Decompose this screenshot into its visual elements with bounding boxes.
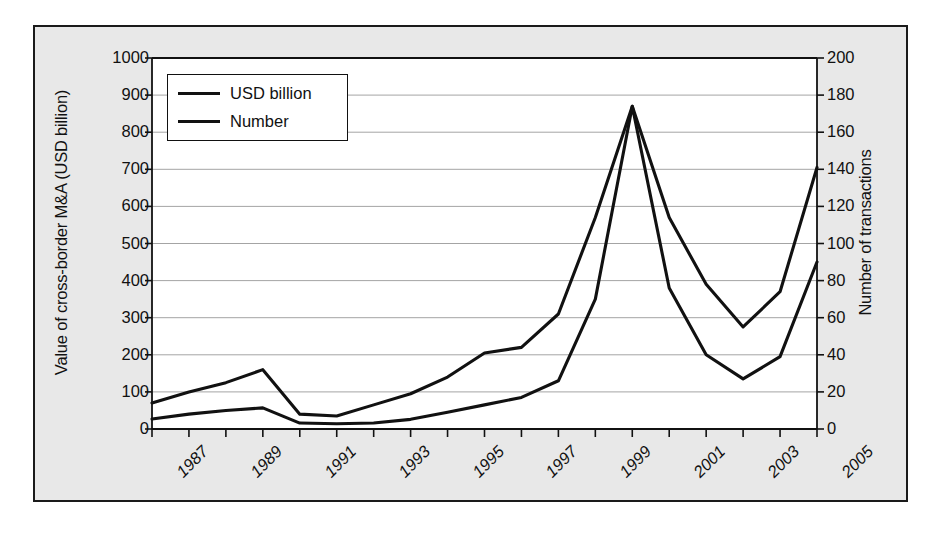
legend-label: USD billion bbox=[230, 84, 312, 103]
chart-figure-inner: Value of cross-border M&A (USD billion) … bbox=[35, 27, 906, 500]
chart-figure: Value of cross-border M&A (USD billion) … bbox=[33, 25, 908, 502]
legend-item-number: Number bbox=[178, 107, 289, 135]
legend-item-usd-billion: USD billion bbox=[178, 79, 312, 107]
chart-legend: USD billion Number bbox=[167, 74, 348, 141]
legend-label: Number bbox=[230, 112, 289, 131]
legend-line-icon bbox=[178, 92, 220, 95]
x-axis-ticks bbox=[152, 429, 817, 437]
legend-line-icon bbox=[178, 120, 220, 123]
